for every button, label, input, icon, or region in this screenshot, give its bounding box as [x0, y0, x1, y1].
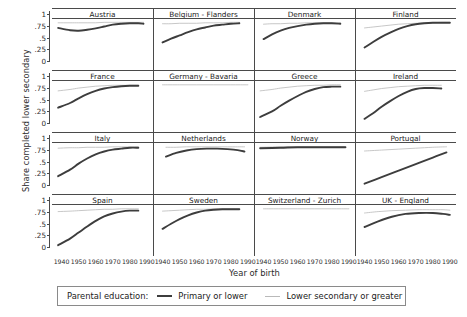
- panel-title: UK - England: [355, 194, 456, 205]
- series-line-primary-or-lower: [163, 23, 240, 42]
- x-tick-label: 1940: [256, 258, 272, 265]
- panel-france: France: [52, 70, 153, 132]
- panel-title: Ireland: [355, 70, 456, 81]
- panel-plot-area: [52, 143, 153, 194]
- series-line-lower-secondary-or-greater: [166, 147, 245, 148]
- y-tick-label: .5: [39, 33, 46, 42]
- y-tick-label: 0: [41, 181, 46, 190]
- panel-divider: [355, 70, 356, 132]
- panel-title: Switzerland - Zurich: [254, 194, 355, 205]
- y-tick-label: .25: [35, 45, 46, 54]
- x-tick-label: 1990: [240, 258, 256, 265]
- panel-row: AustriaBelgium - FlandersDenmarkFinland: [52, 8, 456, 70]
- panel-divider: [355, 194, 356, 256]
- x-tick-label: 1950: [374, 258, 390, 265]
- x-tick-label: 1970: [307, 258, 323, 265]
- series-line-primary-or-lower: [163, 209, 240, 229]
- panel-divider: [254, 132, 255, 194]
- y-tick-label: 0: [41, 243, 46, 252]
- panel-plot-area: [52, 205, 153, 256]
- x-tick-label: 1980: [223, 258, 239, 265]
- panel-title: Greece: [254, 70, 355, 81]
- x-tick-label: 1970: [206, 258, 222, 265]
- series-line-primary-or-lower: [58, 23, 143, 31]
- x-tick-label: 1960: [391, 258, 407, 265]
- y-tick-label: 1: [41, 72, 46, 81]
- panel-row: ItalyNetherlandsNorwayPortugal: [52, 132, 456, 194]
- y-tick-label: .75: [35, 22, 46, 31]
- series-line-lower-secondary-or-greater: [365, 147, 447, 151]
- x-tick-label: 1960: [290, 258, 306, 265]
- panel-norway: Norway: [254, 132, 355, 194]
- series-line-primary-or-lower: [260, 147, 345, 148]
- panel-austria: Austria: [52, 8, 153, 70]
- x-tick-label: 1940: [155, 258, 171, 265]
- panel-title: Finland: [355, 8, 456, 19]
- x-tick-label: 1950: [273, 258, 289, 265]
- legend-label-primary-or-lower: Primary or lower: [178, 291, 247, 301]
- panel-greece: Greece: [254, 70, 355, 132]
- y-axis-spine: [49, 197, 50, 248]
- x-tick-label: 1970: [408, 258, 424, 265]
- panel-divider: [153, 70, 154, 132]
- legend-item-lower-secondary-or-greater: Lower secondary or greater: [265, 291, 402, 301]
- series-line-primary-or-lower: [264, 23, 341, 39]
- panel-divider: [153, 194, 154, 256]
- panel-plot-area: [254, 81, 355, 132]
- series-line-primary-or-lower: [58, 86, 138, 108]
- panel-title: Norway: [254, 132, 355, 143]
- panel-plot-area: [355, 19, 456, 70]
- panel-title: Italy: [52, 132, 153, 143]
- panel-belgium-flanders: Belgium - Flanders: [153, 8, 254, 70]
- series-line-primary-or-lower: [365, 152, 447, 183]
- y-tick-label: 1: [41, 134, 46, 143]
- panel-ireland: Ireland: [355, 70, 456, 132]
- series-line-primary-or-lower: [58, 211, 138, 246]
- y-axis-spine: [49, 11, 50, 62]
- panel-row: SpainSwedenSwitzerland - ZurichUK - Engl…: [52, 194, 456, 256]
- y-axis-spine: [49, 135, 50, 186]
- panel-denmark: Denmark: [254, 8, 355, 70]
- panel-plot-area: [355, 81, 456, 132]
- panel-divider: [355, 8, 356, 70]
- y-axis-spine: [49, 73, 50, 124]
- legend-item-primary-or-lower: Primary or lower: [157, 291, 247, 301]
- y-tick-label: .25: [35, 169, 46, 178]
- panel-title: Netherlands: [153, 132, 254, 143]
- x-tick-label: 1960: [189, 258, 205, 265]
- x-tick-label: 1990: [442, 258, 458, 265]
- y-tick-label: .5: [39, 95, 46, 104]
- panel-plot-area: [254, 143, 355, 194]
- x-tick-label: 1970: [105, 258, 121, 265]
- panel-portugal: Portugal: [355, 132, 456, 194]
- x-tick-label: 1960: [88, 258, 104, 265]
- x-axis-tick-labels: 1940195019601970198019901940195019601970…: [52, 258, 456, 268]
- panel-plot-area: [153, 143, 254, 194]
- x-tick-label: 1940: [54, 258, 70, 265]
- y-tick-label: .5: [39, 219, 46, 228]
- legend-title: Parental education:: [67, 291, 148, 301]
- panel-title: Belgium - Flanders: [153, 8, 254, 19]
- panel-divider: [254, 70, 255, 132]
- y-tick-label: 0: [41, 57, 46, 66]
- panel-italy: Italy: [52, 132, 153, 194]
- panel-title: Denmark: [254, 8, 355, 19]
- y-tick-label: .75: [35, 84, 46, 93]
- panel-row: FranceGermany - BavariaGreeceIreland: [52, 70, 456, 132]
- panel-germany-bavaria: Germany - Bavaria: [153, 70, 254, 132]
- y-tick-label: .75: [35, 146, 46, 155]
- panel-plot-area: [153, 81, 254, 132]
- panel-plot-area: [355, 205, 456, 256]
- panel-spain: Spain: [52, 194, 153, 256]
- x-tick-label: 1980: [425, 258, 441, 265]
- y-tick-label: .25: [35, 107, 46, 116]
- panel-divider: [355, 132, 356, 194]
- y-axis-tick-labels: 0.25.5.7510.25.5.7510.25.5.7510.25.5.751: [0, 0, 50, 248]
- panel-divider: [254, 8, 255, 70]
- panel-title: Austria: [52, 8, 153, 19]
- x-tick-label: 1990: [341, 258, 357, 265]
- legend: Parental education: Primary or lower Low…: [57, 286, 406, 306]
- legend-swatch-light-icon: [265, 296, 280, 297]
- panel-plot-area: [254, 205, 355, 256]
- x-tick-label: 1950: [71, 258, 87, 265]
